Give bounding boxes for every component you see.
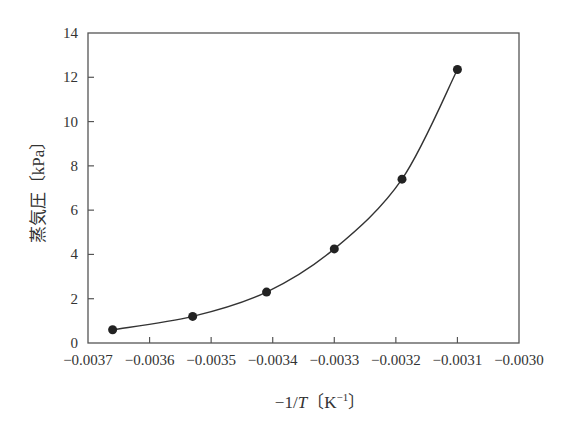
data-point-marker (188, 312, 197, 321)
x-axis-title: −1/T〔K−1〕 (275, 391, 365, 412)
y-tick-label: 14 (63, 25, 79, 41)
y-tick-label: 2 (71, 291, 79, 307)
y-tick-label: 12 (63, 69, 78, 85)
data-point-marker (108, 325, 117, 334)
x-tick-label: −0.0036 (125, 352, 175, 368)
x-tick-label: −0.0032 (371, 352, 421, 368)
series-line (113, 70, 458, 330)
data-point-marker (398, 175, 407, 184)
x-tick-label: −0.0037 (63, 352, 113, 368)
chart: −0.0037−0.0036−0.0035−0.0034−0.0033−0.00… (0, 0, 578, 441)
data-series (108, 65, 462, 334)
y-tick-label: 0 (71, 335, 79, 351)
x-tick-label: −0.0030 (494, 352, 544, 368)
x-tick-label: −0.0033 (309, 352, 359, 368)
data-point-marker (262, 288, 271, 297)
data-point-marker (453, 65, 462, 74)
y-tick-label: 10 (63, 114, 78, 130)
y-tick-label: 4 (71, 246, 79, 262)
y-axis-title: 蒸気圧〔kPa〕 (29, 133, 48, 244)
y-tick-label: 8 (71, 158, 79, 174)
plot-frame (88, 33, 519, 343)
x-tick-label: −0.0031 (433, 352, 483, 368)
y-tick-label: 6 (71, 202, 79, 218)
x-tick-label: −0.0034 (248, 352, 298, 368)
data-point-marker (330, 244, 339, 253)
x-axis-ticks: −0.0037−0.0036−0.0035−0.0034−0.0033−0.00… (63, 337, 544, 368)
x-tick-label: −0.0035 (186, 352, 236, 368)
y-axis-ticks: 02468101214 (63, 25, 94, 351)
